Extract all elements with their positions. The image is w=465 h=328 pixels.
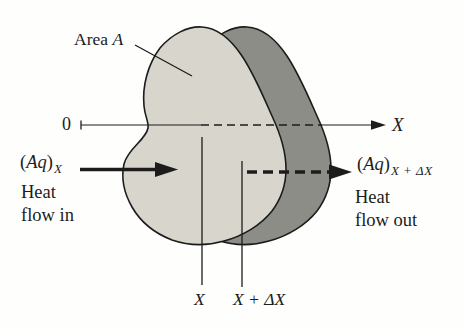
heat-in-subscript: X bbox=[54, 161, 62, 176]
heat-out-caption: Heatflow out bbox=[355, 186, 417, 232]
area-label: Area A bbox=[74, 29, 123, 49]
axis-arrowhead-icon bbox=[371, 120, 386, 130]
heat-in-paren-close: ) bbox=[47, 152, 53, 172]
heat-out-variable: Aq bbox=[363, 154, 384, 174]
heat-out-caption-line2: flow out bbox=[355, 210, 417, 230]
area-label-text: Area bbox=[74, 29, 112, 49]
axis-origin-label: 0 bbox=[62, 114, 71, 135]
heat-in-caption-line1: Heat bbox=[21, 182, 56, 202]
heat-out-flux-label: (Aq)X + ΔX bbox=[357, 154, 433, 175]
x-plus-dx-plane-label: X + ΔX bbox=[233, 289, 285, 309]
heat-out-caption-line1: Heat bbox=[355, 187, 390, 207]
heat-in-variable: Aq bbox=[26, 152, 47, 172]
heat-conduction-figure: Area A 0 X (Aq)X Heatflow in (Aq)X + ΔX … bbox=[0, 0, 465, 328]
heat-in-caption: Heatflow in bbox=[21, 181, 74, 227]
heat-out-subscript: X + ΔX bbox=[391, 163, 433, 178]
area-variable: A bbox=[112, 29, 123, 49]
heat-out-paren-close: ) bbox=[384, 154, 390, 174]
heat-in-caption-line2: flow in bbox=[21, 205, 74, 225]
heat-in-flux-label: (Aq)X bbox=[20, 152, 62, 173]
heat-out-arrowhead-icon bbox=[329, 165, 352, 180]
x-plane-label: X bbox=[194, 289, 205, 309]
axis-x-label: X bbox=[392, 114, 404, 136]
